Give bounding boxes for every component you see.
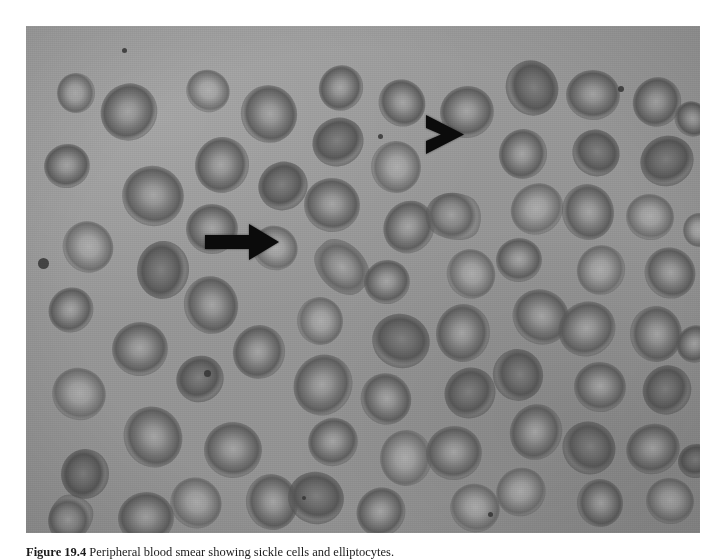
film-grain-overlay — [26, 26, 700, 533]
blood-smear-micrograph — [26, 26, 700, 533]
right-arrow-icon — [205, 224, 279, 260]
figure-caption-label: Figure 19.4 — [26, 545, 86, 559]
chevron-right-icon — [426, 115, 464, 154]
figure-caption: Figure 19.4 Peripheral blood smear showi… — [26, 545, 700, 560]
figure-caption-text: Peripheral blood smear showing sickle ce… — [86, 545, 394, 559]
